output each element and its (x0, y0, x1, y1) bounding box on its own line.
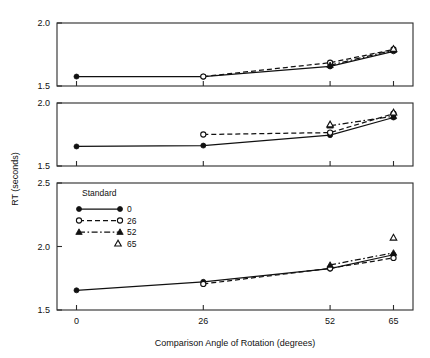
marker-open-triangle (115, 240, 122, 246)
series-line-26 (203, 114, 393, 135)
marker-open-circle (76, 218, 81, 223)
series-line-52 (330, 116, 393, 125)
marker-open-triangle (327, 121, 334, 127)
marker-filled-circle (74, 74, 79, 79)
top-panel: 1.52.0 (37, 18, 413, 91)
x-tick-label: 65 (388, 316, 398, 326)
series-line-0 (77, 51, 394, 76)
marker-open-circle (201, 281, 206, 286)
legend-label-26: 26 (127, 216, 137, 226)
middle-panel: 1.52.0 (37, 98, 413, 171)
series-line-52 (330, 253, 393, 265)
x-axis: 0265265Comparison Angle of Rotation (deg… (74, 316, 399, 348)
marker-open-circle (201, 74, 206, 79)
marker-filled-circle (77, 207, 82, 212)
series-line-0 (77, 255, 394, 291)
series-markers-26 (201, 111, 396, 137)
marker-open-circle (201, 132, 206, 137)
legend-item-52: 52 (76, 227, 137, 237)
y-tick-label: 1.5 (37, 161, 50, 171)
legend-label-52: 52 (127, 227, 137, 237)
legend-item-65: 65 (115, 239, 137, 249)
figure-root: 1.52.01.52.01.52.02.50265265Comparison A… (0, 0, 430, 358)
legend-item-26: 26 (76, 216, 136, 226)
marker-filled-circle (201, 143, 206, 148)
panel-frame (57, 183, 413, 310)
series-line-0 (77, 117, 394, 146)
y-axis-title: RT (seconds) (10, 152, 20, 206)
legend-title: Standard (82, 188, 117, 198)
x-tick-label: 26 (198, 316, 208, 326)
series-markers-0 (74, 115, 396, 149)
series-markers-52 (327, 250, 397, 268)
marker-filled-triangle (390, 250, 396, 256)
series-markers-65 (390, 234, 397, 240)
panel-frame (57, 103, 413, 166)
y-tick-label: 1.5 (37, 81, 50, 91)
legend-label-0: 0 (127, 204, 132, 214)
series-markers-65 (327, 109, 397, 127)
y-tick-label: 2.0 (37, 18, 50, 28)
marker-filled-circle (74, 288, 79, 293)
legend: Standard0265265 (76, 188, 137, 249)
marker-open-triangle (390, 234, 397, 240)
legend-label-65: 65 (127, 239, 137, 249)
marker-open-circle (391, 255, 396, 260)
x-tick-label: 0 (74, 316, 79, 326)
x-axis-title: Comparison Angle of Rotation (degrees) (155, 338, 316, 348)
bottom-panel: 1.52.02.5 (37, 178, 413, 315)
x-tick-label: 52 (325, 316, 335, 326)
y-tick-label: 1.5 (37, 305, 50, 315)
y-tick-label: 2.0 (37, 242, 50, 252)
marker-open-circle (327, 130, 332, 135)
y-tick-label: 2.0 (37, 98, 50, 108)
series-line-26 (203, 49, 393, 76)
series-line-26 (203, 258, 393, 284)
y-tick-label: 2.5 (37, 178, 50, 188)
marker-open-circle (117, 218, 122, 223)
marker-filled-circle (118, 207, 123, 212)
legend-item-0: 0 (77, 204, 133, 214)
series-line-52 (330, 50, 393, 65)
marker-filled-circle (74, 144, 79, 149)
